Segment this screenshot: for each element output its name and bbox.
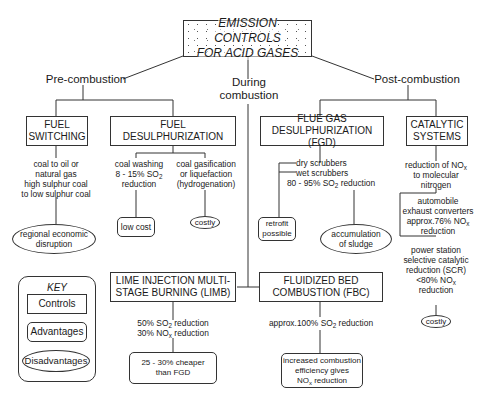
control-fuel-switching: FUELSWITCHING (26, 116, 88, 146)
advantage-low-cost: low cost (117, 217, 155, 237)
key-controls: Controls (27, 294, 87, 314)
note-dry-scrubbers: dry scrubbers (296, 158, 356, 168)
title-line-1: EMISSION CONTROLS (214, 16, 281, 45)
control-catalytic-systems: CATALYTICSYSTEMS (406, 116, 468, 146)
note-limb-nox: 30% NOx reduction (128, 328, 218, 338)
advantage-fbc-efficiency: increased combustion efficiency gives NO… (281, 353, 363, 388)
key-title: KEY (19, 282, 95, 293)
key-advantages: Advantages (27, 322, 87, 342)
control-fbc: FLUIDIZED BEDCOMBUSTION (FBC) (259, 272, 383, 302)
advantage-retrofit-possible: retrofitpossible (258, 217, 296, 241)
key-disadvantages: Disadvantages (22, 350, 90, 372)
branch-pre-combustion: Pre-combustion (45, 73, 127, 86)
legend-key: KEY Controls Advantages Disadvantages (18, 276, 96, 382)
control-limb: LIME INJECTION MULTI-STAGE BURNING (LIMB… (110, 272, 236, 302)
note-wet-scrubbers: wet scrubbers (296, 168, 356, 178)
note-fbc-so2: approx.100% SO2 reduction (266, 318, 376, 328)
disadvantage-costly-scr: costly (421, 315, 451, 328)
note-automobile-converters: automobile exhaust converters approx.76%… (398, 196, 478, 236)
note-power-station-scr: power station selective catalytic reduct… (396, 245, 476, 295)
control-flue-gas-desulphurization: FLUE GASDESULPHURIZATION (FGD) (260, 116, 384, 146)
disadvantage-regional-disruption: regional economicdisruption (12, 224, 96, 254)
note-fgd-reduction: 80 - 95% SO2 reduction (276, 178, 386, 188)
disadvantage-costly-gasification: costly (190, 216, 220, 229)
advantage-limb-cheaper: 25 - 30% cheaperthan FGD (129, 352, 217, 384)
control-fuel-desulphurization: FUELDESULPHURIZATION (110, 116, 236, 146)
note-limb-so2: 50% SO2 reduction (128, 318, 218, 328)
branch-during-combustion: During combustion (218, 76, 280, 102)
note-coal-gasification: coal gasification or liquefaction (hydro… (170, 159, 242, 189)
disadvantage-accumulation-of-sludge: accumulationof sludge (320, 224, 392, 254)
title-box: EMISSION CONTROLS FOR ACID GASES (183, 20, 312, 57)
title-line-2: FOR ACID GASES (197, 46, 299, 60)
branch-post-combustion: Post-combustion (372, 73, 462, 86)
note-catalytic-reduction: reduction of NOx to molecular nitrogen (396, 160, 476, 190)
note-fuel-switching: coal to oil or natural gas high sulphur … (16, 159, 96, 199)
note-coal-washing: coal washing 8 - 15% SO2 reduction (108, 159, 170, 189)
